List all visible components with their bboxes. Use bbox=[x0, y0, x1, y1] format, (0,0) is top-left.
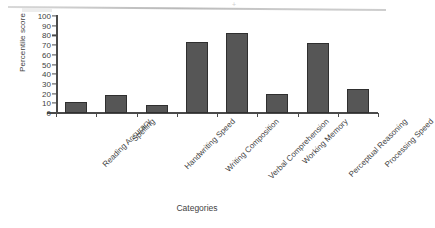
bar-category bbox=[338, 16, 378, 113]
bar bbox=[105, 95, 127, 113]
x-axis-tick-labels: Reading AccuracySpellingHandwriting Spee… bbox=[56, 113, 378, 198]
x-tick-label: Processing Speed bbox=[383, 117, 435, 169]
bar-series bbox=[56, 16, 378, 113]
bar-category bbox=[96, 16, 136, 113]
bar bbox=[65, 102, 87, 113]
bar bbox=[307, 43, 329, 113]
plot-area: 0102030405060708090100 bbox=[56, 16, 378, 113]
bar bbox=[347, 89, 369, 113]
bar-category bbox=[298, 16, 338, 113]
bar bbox=[146, 105, 168, 113]
bar bbox=[186, 42, 208, 113]
bar-category bbox=[257, 16, 297, 113]
bar bbox=[226, 33, 248, 114]
x-tick-mark bbox=[378, 113, 379, 117]
x-axis-title: Categories bbox=[0, 203, 394, 213]
y-axis-title: Percentile score bbox=[18, 0, 27, 93]
bar bbox=[266, 94, 288, 113]
bar-category bbox=[137, 16, 177, 113]
bar-category bbox=[177, 16, 217, 113]
scan-artifact-mark: + bbox=[232, 2, 237, 7]
bar-category bbox=[56, 16, 96, 113]
scan-artifact-line bbox=[8, 6, 386, 11]
bar-category bbox=[217, 16, 257, 113]
